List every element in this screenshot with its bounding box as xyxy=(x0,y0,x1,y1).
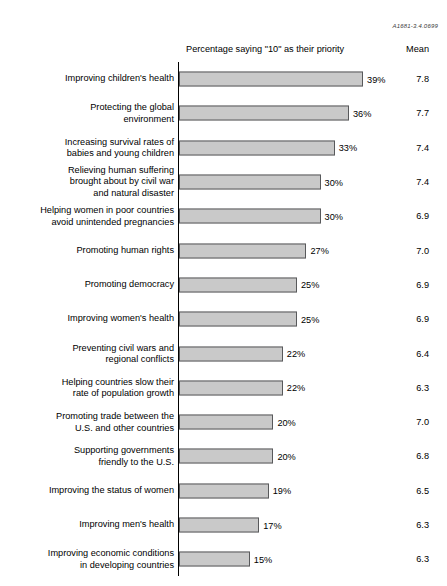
chart-row: Improving children's health39%7.8 xyxy=(0,62,447,96)
row-mean-value: 6.9 xyxy=(0,211,429,221)
chart-row: Promoting democracy25%6.9 xyxy=(0,268,447,302)
row-mean-value: 6.4 xyxy=(0,349,429,359)
chart-row: Relieving human suffering brought about … xyxy=(0,165,447,199)
row-mean-value: 7.0 xyxy=(0,246,429,256)
row-mean-value: 7.4 xyxy=(0,143,429,153)
row-mean-value: 6.3 xyxy=(0,554,429,564)
chart-row: Preventing civil wars and regional confl… xyxy=(0,336,447,370)
chart-row: Improving economic conditions in develop… xyxy=(0,542,447,576)
chart-rows: Improving children's health39%7.8Protect… xyxy=(0,62,447,576)
row-mean-value: 6.3 xyxy=(0,520,429,530)
chart-row: Protecting the global environment36%7.7 xyxy=(0,96,447,130)
row-mean-value: 7.7 xyxy=(0,108,429,118)
chart-row: Improving women's health25%6.9 xyxy=(0,302,447,336)
row-mean-value: 6.5 xyxy=(0,486,429,496)
chart-header: Percentage saying "10" as their priority… xyxy=(0,44,447,60)
chart-row: Promoting human rights27%7.0 xyxy=(0,233,447,267)
chart-row: Improving the status of women19%6.5 xyxy=(0,474,447,508)
priority-bar-chart: Percentage saying "10" as their priority… xyxy=(0,0,447,586)
chart-row: Increasing survival rates of babies and … xyxy=(0,131,447,165)
row-mean-value: 6.9 xyxy=(0,314,429,324)
row-mean-value: 7.8 xyxy=(0,74,429,84)
chart-row: Helping countries slow their rate of pop… xyxy=(0,371,447,405)
chart-row: Promoting trade between the U.S. and oth… xyxy=(0,405,447,439)
row-mean-value: 7.0 xyxy=(0,417,429,427)
row-mean-value: 6.9 xyxy=(0,280,429,290)
chart-row: Supporting governments friendly to the U… xyxy=(0,439,447,473)
row-mean-value: 6.8 xyxy=(0,451,429,461)
chart-row: Helping women in poor countries avoid un… xyxy=(0,199,447,233)
chart-row: Improving men's health17%6.3 xyxy=(0,508,447,542)
mean-column-header: Mean xyxy=(0,44,429,54)
row-mean-value: 7.4 xyxy=(0,177,429,187)
row-mean-value: 6.3 xyxy=(0,383,429,393)
